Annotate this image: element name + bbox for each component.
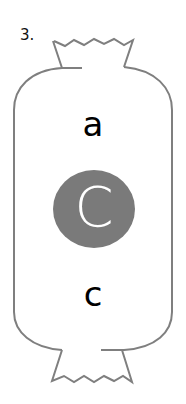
highlight-letter: C	[53, 174, 135, 239]
bottom-letter: c	[0, 274, 186, 314]
highlight-circle: C	[53, 170, 135, 248]
top-letter: a	[0, 104, 186, 144]
